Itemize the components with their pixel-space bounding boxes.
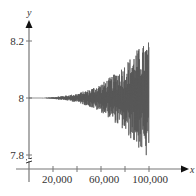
y-tick-label-8.2: 8.2 <box>10 35 24 47</box>
y-axis-arrow-icon <box>26 20 33 28</box>
x-tick-label-60000: 60,000 <box>89 173 120 185</box>
x-axis-label: x <box>189 164 195 175</box>
x-tick-label-100000: 100,000 <box>132 173 168 185</box>
y-tick-label-7.8: 7.8 <box>10 149 24 161</box>
x-tick-label-20000: 20,000 <box>42 173 73 185</box>
y-tick-label-8: 8 <box>19 92 25 104</box>
data-series-line <box>29 43 149 156</box>
chart: y 8.2 8 7.8 x 20,000 60,000 100,000 <box>0 0 196 196</box>
x-axis-arrow-icon <box>181 166 189 173</box>
y-axis-label: y <box>26 7 32 18</box>
